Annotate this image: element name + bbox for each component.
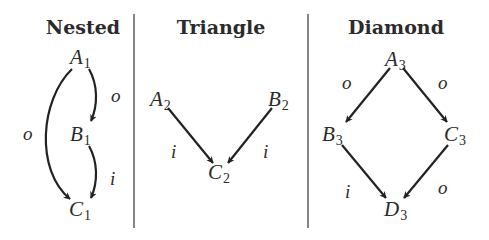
panel-diamond: Diamond A3 B3 C3 D3 o o i o bbox=[322, 16, 466, 223]
edge-a3-b3 bbox=[346, 68, 390, 122]
edge-label-a1-c1: o bbox=[23, 123, 33, 144]
edge-a1-b1 bbox=[89, 69, 96, 121]
edge-label-b3-d3: i bbox=[345, 181, 350, 202]
edge-label-b1-c1: i bbox=[110, 168, 115, 189]
panel-triangle: Triangle A2 B2 C2 i i bbox=[148, 16, 289, 186]
diagram-canvas: Nested A1 B1 C1 o i o Triangle A2 B2 C2 … bbox=[0, 0, 489, 240]
node-c1: C1 bbox=[69, 197, 91, 223]
edge-label-c3-d3: o bbox=[438, 177, 448, 198]
node-b3: B3 bbox=[322, 122, 343, 148]
panel-nested: Nested A1 B1 C1 o i o bbox=[23, 16, 121, 223]
node-c3: C3 bbox=[444, 122, 466, 148]
edge-label-b2-c2: i bbox=[263, 141, 268, 162]
edge-label-a3-c3: o bbox=[438, 72, 448, 93]
node-a2: A2 bbox=[148, 87, 171, 113]
node-a3: A3 bbox=[383, 47, 406, 73]
node-c2: C2 bbox=[208, 160, 230, 186]
edge-b1-c1 bbox=[89, 146, 96, 198]
node-d3: D3 bbox=[383, 197, 407, 223]
edge-label-a1-b1: o bbox=[111, 85, 121, 106]
node-b1: B1 bbox=[70, 122, 91, 148]
panel-title-triangle: Triangle bbox=[177, 16, 266, 38]
node-a1: A1 bbox=[68, 45, 91, 71]
panel-title-nested: Nested bbox=[46, 16, 120, 38]
edge-label-a3-b3: o bbox=[342, 72, 352, 93]
edge-a1-c1 bbox=[46, 69, 72, 199]
diagram-figure: Nested A1 B1 C1 o i o Triangle A2 B2 C2 … bbox=[0, 0, 489, 240]
panel-title-diamond: Diamond bbox=[348, 16, 444, 38]
edge-label-a2-c2: i bbox=[171, 141, 176, 162]
